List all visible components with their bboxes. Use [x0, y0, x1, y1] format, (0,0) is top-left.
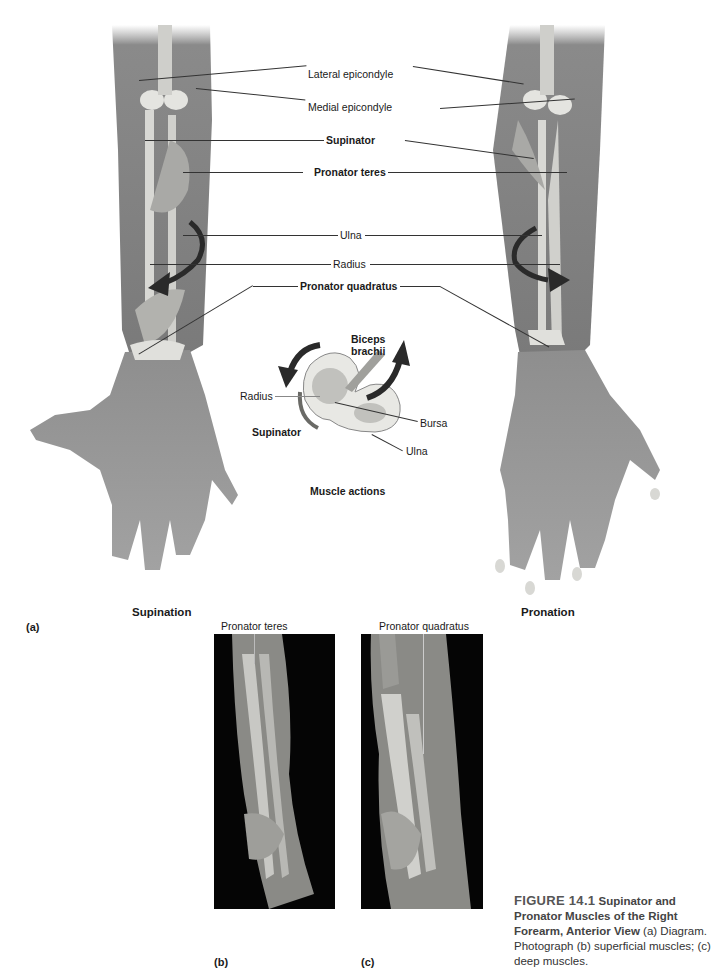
label-radius: Radius	[331, 258, 368, 270]
leader-line	[370, 264, 560, 265]
left-arm-supination	[30, 25, 238, 570]
inset-label-bursa: Bursa	[418, 417, 449, 429]
leader-line	[275, 396, 320, 397]
leader-line	[145, 140, 335, 141]
panel-label-b: (b)	[214, 956, 228, 968]
right-arm-pronation	[493, 25, 660, 595]
caption-pronation: Pronation	[519, 606, 577, 618]
inset-label-ulna: Ulna	[404, 445, 430, 457]
photo-superficial-muscles	[214, 634, 335, 909]
panel-a-illustration	[0, 0, 711, 620]
label-pronator-teres: Pronator teres	[312, 166, 388, 178]
leader-line	[150, 264, 332, 265]
figure-number: FIGURE 14.1	[514, 893, 595, 908]
leader-line	[254, 634, 255, 664]
leader-line	[400, 286, 440, 287]
label-pronator-quadratus: Pronator quadratus	[298, 280, 399, 292]
photo-b-label: Pronator teres	[219, 620, 290, 632]
inset-label-biceps-2: brachii	[349, 345, 387, 357]
caption-supination: Supination	[130, 606, 193, 618]
leader-line	[387, 172, 567, 173]
inset-label-radius: Radius	[238, 390, 275, 402]
leader-line	[365, 235, 542, 236]
photo-deep-muscles	[361, 634, 483, 909]
label-ulna: Ulna	[338, 229, 364, 241]
leader-line	[253, 286, 298, 287]
muscle-actions-inset	[278, 340, 410, 432]
leader-line	[183, 172, 303, 173]
label-lateral-epicondyle: Lateral epicondyle	[306, 68, 395, 80]
panel-label-c: (c)	[361, 956, 374, 968]
figure-caption: FIGURE 14.1 Supinator and Pronator Muscl…	[514, 893, 711, 969]
label-supinator: Supinator	[324, 134, 377, 146]
panel-label-a: (a)	[26, 621, 39, 633]
inset-title: Muscle actions	[308, 485, 387, 497]
inset-label-biceps-1: Biceps	[349, 333, 387, 345]
label-medial-epicondyle: Medial epicondyle	[306, 101, 394, 113]
leader-line	[423, 634, 424, 754]
photo-c-label: Pronator quadratus	[377, 620, 471, 632]
inset-label-supinator: Supinator	[250, 426, 303, 438]
leader-line	[183, 235, 338, 236]
